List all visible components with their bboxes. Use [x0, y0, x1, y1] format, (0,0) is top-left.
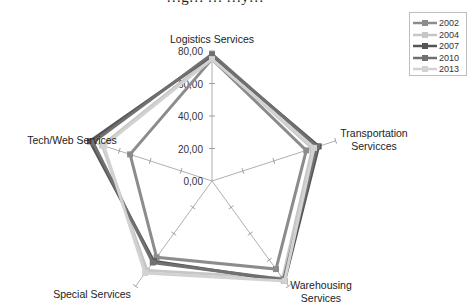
data-marker [209, 56, 215, 62]
data-marker [311, 145, 317, 151]
series-2002 [127, 56, 309, 272]
category-label: Logistics Services [170, 33, 254, 45]
legend-swatch-icon [413, 53, 437, 63]
category-label: Special Services [53, 288, 131, 300]
legend-label: 2002 [439, 18, 459, 28]
category-label: WarehousingServices [290, 279, 352, 303]
legend-item-2010: 2010 [413, 52, 459, 64]
radar-axes: 0,0020,0040,0060,0080,00 [87, 46, 336, 288]
data-marker [142, 270, 148, 276]
legend-label: 2013 [439, 64, 459, 74]
axis-tick [267, 258, 272, 262]
data-marker [282, 278, 288, 284]
series-line [130, 59, 306, 269]
legend-item-2002: 2002 [413, 17, 459, 29]
axis-tick [133, 284, 138, 288]
axis-tick [248, 232, 253, 236]
legend-swatch-icon [413, 30, 437, 40]
data-marker [150, 260, 156, 266]
legend-label: 2004 [439, 30, 459, 40]
data-marker [303, 147, 309, 153]
legend-label: 2007 [439, 41, 459, 51]
radar-chart: 0,0020,0040,0060,0080,00 Logistics Servi… [0, 0, 468, 303]
legend-swatch-icon [413, 41, 437, 51]
category-label: TransportationServicces [340, 127, 407, 152]
legend-item-2004: 2004 [413, 29, 459, 41]
radial-tick-label: 40,00 [178, 111, 203, 122]
series-line [90, 56, 319, 281]
series-2010 [90, 51, 320, 282]
data-marker [127, 151, 133, 157]
legend-label: 2010 [439, 53, 459, 63]
axis-tick [190, 206, 195, 210]
radial-tick-label: 0,00 [184, 176, 204, 187]
category-label: Tech/Web Services [27, 134, 117, 146]
radar-series [87, 51, 322, 284]
legend: 20022004200720102013 [409, 12, 467, 76]
legend-swatch-icon [413, 18, 437, 28]
axis-tick [171, 232, 176, 236]
series-2007 [87, 53, 322, 284]
legend-item-2013: 2013 [413, 63, 459, 75]
radial-tick-label: 80,00 [178, 46, 203, 57]
data-marker [273, 266, 279, 272]
axis-tick [229, 206, 234, 210]
legend-swatch-icon [413, 64, 437, 74]
legend-item-2007: 2007 [413, 40, 459, 52]
radial-tick-label: 20,00 [178, 144, 203, 155]
